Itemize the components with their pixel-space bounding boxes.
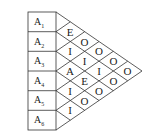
cell-a2-a5: I xyxy=(97,66,101,77)
row-label-a3: A3 xyxy=(34,56,44,68)
cell-a1-a2: E xyxy=(67,26,74,37)
cell-a4-a6: O xyxy=(81,95,89,106)
row-label-a1: A1 xyxy=(34,17,44,29)
cell-a3-a6: O xyxy=(95,85,103,96)
cell-a5-a6: I xyxy=(68,105,72,116)
cell-a2-a4: I xyxy=(83,56,87,67)
row-label-a5: A5 xyxy=(34,95,44,107)
cell-a1-a4: O xyxy=(95,46,103,57)
cell-a1-a6: O xyxy=(124,66,132,77)
cell-a4-a5: I xyxy=(68,85,72,96)
row-label-a4: A4 xyxy=(34,76,44,88)
cell-a1-a3: O xyxy=(81,36,89,47)
row-label-a2: A2 xyxy=(34,37,44,49)
cell-a3-a5: E xyxy=(81,75,88,86)
cell-a3-a4: A xyxy=(66,66,74,77)
cell-a1-a5: O xyxy=(110,56,118,67)
cell-a2-a3: I xyxy=(68,46,72,57)
row-label-a6: A6 xyxy=(34,115,44,127)
relationship-diagram-lines xyxy=(0,0,157,135)
cell-a2-a6: O xyxy=(110,75,118,86)
